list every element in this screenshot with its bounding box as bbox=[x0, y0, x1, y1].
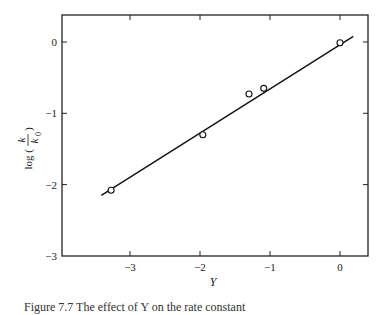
y-tick-label: −3 bbox=[45, 250, 57, 262]
y-tick-label: −2 bbox=[45, 179, 57, 191]
data-point bbox=[337, 40, 343, 46]
x-tick-label: −2 bbox=[194, 261, 206, 273]
figure-caption: Figure 7.7 The effect of Y on the rate c… bbox=[24, 300, 245, 315]
x-axis-label: Y bbox=[210, 275, 218, 289]
data-point bbox=[108, 187, 114, 193]
ylabel-denominator: k bbox=[28, 137, 40, 143]
x-tick-label: −1 bbox=[264, 261, 276, 273]
y-tick-label: −1 bbox=[45, 107, 57, 119]
ylabel-subscript: 0 bbox=[34, 132, 43, 136]
axis-ticks bbox=[62, 15, 368, 256]
data-point bbox=[200, 132, 206, 138]
ylabel-log: log ( bbox=[22, 149, 35, 170]
plot-border bbox=[62, 15, 368, 256]
y-axis-label: log (kk0) bbox=[15, 127, 43, 169]
x-tick-label: −3 bbox=[124, 261, 136, 273]
data-point bbox=[246, 91, 252, 97]
data-point bbox=[261, 85, 267, 91]
ylabel-close: ) bbox=[22, 127, 35, 131]
x-tick-label: 0 bbox=[337, 261, 343, 273]
ylabel-numerator: k bbox=[15, 136, 27, 142]
regression-line bbox=[101, 36, 353, 195]
plot-frame bbox=[62, 15, 368, 256]
y-tick-label: 0 bbox=[52, 36, 58, 48]
fit-line bbox=[101, 36, 353, 195]
